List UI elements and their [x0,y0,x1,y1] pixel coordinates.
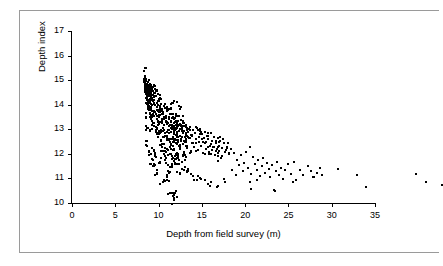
scatter-point [182,132,184,134]
scatter-point [203,137,205,139]
scatter-point [249,181,251,183]
scatter-point [167,164,169,166]
scatter-point [166,135,168,137]
scatter-point [168,172,170,174]
scatter-point [192,175,194,177]
scatter-point [205,148,207,150]
scatter-point [256,169,258,171]
scatter-point [290,173,292,175]
x-axis-tick [202,203,203,207]
scatter-point [187,131,189,133]
scatter-point [171,203,173,205]
scatter-point [193,179,195,181]
x-axis-tick [115,203,116,207]
scatter-point [192,129,194,131]
scatter-point [214,154,216,156]
scatter-point [184,159,186,161]
scatter-point [178,115,180,117]
scatter-point [250,188,252,190]
x-axis-tick [288,203,289,207]
scatter-point [264,172,266,174]
plot-area [72,31,375,203]
scatter-point [178,159,180,161]
y-axis-tick-label: 15 [44,74,64,84]
scatter-point [356,174,358,176]
scatter-point [186,147,188,149]
scatter-point [157,120,159,122]
scatter-point [207,146,209,148]
scatter-point [210,153,212,155]
scatter-point [321,174,323,176]
scatter-point [182,115,184,117]
scatter-point [178,163,180,165]
scatter-point [250,173,252,175]
scatter-point [150,118,152,120]
y-axis-tick [68,178,72,179]
scatter-point [145,129,147,131]
scatter-point [169,138,171,140]
scatter-point [254,163,256,165]
y-axis-tick [68,31,72,32]
scatter-point [158,116,160,118]
scatter-point [235,174,237,176]
scatter-point [157,136,159,138]
scatter-point [185,132,187,134]
scatter-point [159,97,161,99]
scatter-point [199,177,201,179]
scatter-point [299,169,301,171]
scatter-point [209,185,211,187]
scatter-point [158,100,160,102]
scatter-point [189,152,191,154]
scatter-point [275,170,277,172]
scatter-point [221,147,223,149]
scatter-point [217,146,219,148]
x-axis-tick [332,203,333,207]
scatter-point [176,196,178,198]
scatter-point [158,111,160,113]
scatter-point [152,165,154,167]
scatter-point [185,141,187,143]
scatter-point [153,103,155,105]
scatter-point [210,143,212,145]
scatter-point [154,155,156,157]
scatter-point [307,165,309,167]
scatter-point [230,148,232,150]
scatter-point [210,181,212,183]
scatter-point [252,156,254,158]
scatter-point [176,143,178,145]
scatter-point [145,88,147,90]
scatter-point [223,142,225,144]
scatter-point [191,134,193,136]
scatter-point [158,114,160,116]
scatter-point [207,132,209,134]
scatter-point [168,116,170,118]
scatter-point [176,101,178,103]
scatter-point [185,135,187,137]
scatter-point [172,192,174,194]
x-axis-tick-label: 10 [147,210,171,220]
scatter-point [195,150,197,152]
scatter-point [425,181,427,183]
scatter-point [211,149,213,151]
scatter-point [198,136,200,138]
scatter-point [205,141,207,143]
scatter-point [151,147,153,149]
y-axis-tick [68,80,72,81]
scatter-point [175,190,177,192]
scatter-point [157,93,159,95]
scatter-point [167,149,169,151]
y-axis-tick-label: 11 [44,172,64,182]
scatter-point [202,141,204,143]
scatter-point [154,85,156,87]
scatter-point [164,135,166,137]
y-axis-tick [68,129,72,130]
scatter-point [145,67,147,69]
scatter-point [152,113,154,115]
scatter-point [159,183,161,185]
scatter-point [184,166,186,168]
scatter-point [166,131,168,133]
scatter-point [213,136,215,138]
scatter-point [154,152,156,154]
scatter-point [156,89,158,91]
scatter-point [256,179,258,181]
